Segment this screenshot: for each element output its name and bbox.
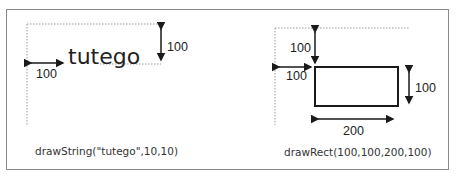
- left-panel-drawstring: 100 100 tutego drawString("tutego",10,10…: [27, 24, 188, 157]
- top-offset-label: 100: [290, 41, 311, 55]
- left-offset-label: 100: [286, 69, 307, 83]
- width-label: 200: [343, 124, 364, 138]
- drawstring-caption: drawString("tutego",10,10): [35, 145, 178, 157]
- drawrect-caption: drawRect(100,100,200,100): [284, 146, 432, 158]
- coordinate-diagram: 100 100 tutego drawString("tutego",10,10…: [0, 0, 457, 176]
- sample-string-text: tutego: [68, 44, 140, 69]
- height-label: 100: [415, 81, 436, 95]
- drawn-rectangle: [315, 67, 398, 106]
- vertical-offset-label: 100: [167, 40, 188, 54]
- right-panel-drawrect: 100 100 100 200 drawRect(100,100,200,100…: [275, 28, 436, 158]
- horizontal-offset-label: 100: [36, 67, 57, 81]
